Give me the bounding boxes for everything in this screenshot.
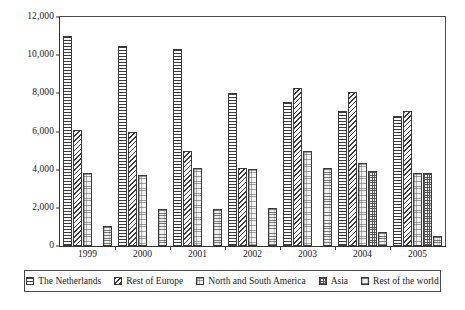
x-axis-tick-label: 2000 bbox=[133, 249, 152, 259]
bar-chart: 02,0004,0006,0008,00010,00012,000 199920… bbox=[0, 0, 465, 310]
legend-item[interactable]: North and South America bbox=[196, 276, 305, 286]
x-axis-group-tick bbox=[335, 246, 336, 250]
bar bbox=[173, 49, 182, 246]
legend-label: The Netherlands bbox=[38, 276, 101, 286]
bar-group bbox=[60, 17, 115, 246]
bar-group bbox=[390, 17, 445, 246]
bar-slot bbox=[73, 17, 82, 246]
bar-slot bbox=[413, 17, 422, 246]
legend-label: Asia bbox=[331, 276, 348, 286]
x-axis-group-tick bbox=[170, 246, 171, 250]
bar bbox=[423, 173, 432, 246]
legend-swatch-icon bbox=[196, 277, 204, 285]
bar bbox=[403, 111, 412, 246]
bar bbox=[63, 36, 72, 246]
bar bbox=[118, 46, 127, 246]
bar bbox=[348, 92, 357, 246]
bar bbox=[358, 163, 367, 246]
bar bbox=[303, 151, 312, 246]
bar-slot bbox=[248, 17, 257, 246]
bar-slot bbox=[283, 17, 292, 246]
bar bbox=[183, 151, 192, 246]
bar bbox=[103, 226, 112, 246]
legend-label: Rest of Europe bbox=[126, 276, 183, 286]
bar-slot bbox=[368, 17, 377, 246]
bar-group bbox=[225, 17, 280, 246]
bar-slot bbox=[213, 17, 222, 246]
bar-group bbox=[170, 17, 225, 246]
bar-slot bbox=[358, 17, 367, 246]
bar-slot bbox=[138, 17, 147, 246]
bar-slot bbox=[348, 17, 357, 246]
bar bbox=[338, 111, 347, 246]
bar bbox=[238, 168, 247, 246]
bar-slot bbox=[433, 17, 442, 246]
bar-slot bbox=[148, 17, 157, 246]
legend-label: Rest of the world bbox=[373, 276, 439, 286]
legend-label: North and South America bbox=[208, 276, 305, 286]
legend-item[interactable]: Rest of Europe bbox=[114, 276, 183, 286]
legend-item[interactable]: Rest of the world bbox=[361, 276, 439, 286]
bar-group bbox=[115, 17, 170, 246]
bar bbox=[193, 168, 202, 246]
legend-swatch-icon bbox=[114, 277, 122, 285]
bar-groups bbox=[60, 17, 445, 246]
bar-slot bbox=[303, 17, 312, 246]
legend-swatch-icon bbox=[361, 277, 369, 285]
bar-group bbox=[280, 17, 335, 246]
bar bbox=[413, 173, 422, 246]
bar bbox=[248, 169, 257, 246]
bar bbox=[158, 209, 167, 246]
bar-slot bbox=[158, 17, 167, 246]
bar-slot bbox=[118, 17, 127, 246]
bar-slot bbox=[203, 17, 212, 246]
bar bbox=[393, 116, 402, 246]
bar bbox=[128, 132, 137, 247]
x-axis-group-tick bbox=[225, 246, 226, 250]
x-axis-group-tick bbox=[115, 246, 116, 250]
x-axis-tick-label: 2003 bbox=[298, 249, 317, 259]
bar-slot bbox=[338, 17, 347, 246]
bar bbox=[293, 88, 302, 246]
bar-slot bbox=[228, 17, 237, 246]
bar-slot bbox=[378, 17, 387, 246]
bar-slot bbox=[403, 17, 412, 246]
x-axis-group-tick bbox=[280, 246, 281, 250]
x-axis-tick-label: 2004 bbox=[353, 249, 372, 259]
x-axis-tick-label: 2005 bbox=[408, 249, 427, 259]
legend-item[interactable]: The Netherlands bbox=[26, 276, 101, 286]
bar-group bbox=[335, 17, 390, 246]
bar-slot bbox=[173, 17, 182, 246]
bar bbox=[433, 236, 442, 246]
bar-slot bbox=[313, 17, 322, 246]
legend-item[interactable]: Asia bbox=[319, 276, 348, 286]
bar bbox=[213, 209, 222, 246]
bar bbox=[268, 208, 277, 246]
bar-slot bbox=[103, 17, 112, 246]
bar-slot bbox=[258, 17, 267, 246]
bar bbox=[323, 168, 332, 246]
bar-slot bbox=[193, 17, 202, 246]
bar bbox=[228, 93, 237, 246]
bar-slot bbox=[293, 17, 302, 246]
plot-area: 02,0004,0006,0008,00010,00012,000 199920… bbox=[60, 17, 445, 246]
bar bbox=[138, 175, 147, 246]
bar bbox=[378, 232, 387, 246]
x-axis-tick-label: 2002 bbox=[243, 249, 262, 259]
bar-slot bbox=[423, 17, 432, 246]
bar bbox=[83, 173, 92, 246]
legend-swatch-icon bbox=[26, 277, 34, 285]
bar-slot bbox=[268, 17, 277, 246]
x-axis-group-tick bbox=[390, 246, 391, 250]
bar bbox=[73, 130, 82, 246]
x-axis-tick-label: 2001 bbox=[188, 249, 207, 259]
legend-swatch-icon bbox=[319, 277, 327, 285]
bar bbox=[368, 171, 377, 246]
bar-slot bbox=[393, 17, 402, 246]
bar-slot bbox=[128, 17, 137, 246]
bar-slot bbox=[93, 17, 102, 246]
x-axis-tick-label: 1999 bbox=[78, 249, 97, 259]
bar-slot bbox=[63, 17, 72, 246]
bar-slot bbox=[83, 17, 92, 246]
bar bbox=[283, 102, 292, 246]
